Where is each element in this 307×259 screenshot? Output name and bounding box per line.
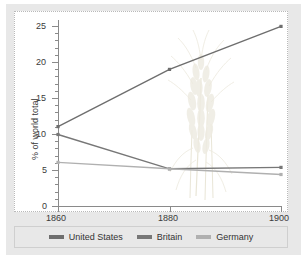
chart-legend: United States Britain Germany	[14, 226, 288, 248]
data-point-marker	[279, 166, 282, 169]
data-point-marker	[279, 173, 282, 176]
legend-swatch-germany	[196, 235, 211, 239]
legend-item-germany[interactable]: Germany	[196, 232, 253, 242]
legend-label-britain: Britain	[157, 232, 183, 242]
legend-label-united-states: United States	[69, 232, 123, 242]
data-point-marker	[279, 25, 282, 28]
data-point-marker	[56, 133, 59, 136]
legend-swatch-united-states	[49, 235, 64, 239]
legend-item-britain[interactable]: Britain	[137, 232, 183, 242]
series-line-united-states	[58, 26, 281, 126]
legend-swatch-britain	[137, 235, 152, 239]
data-point-marker	[56, 161, 59, 164]
chart-figure: 25 20 15 10 5 0 % of world total 1860 18…	[0, 0, 307, 259]
series-layer	[0, 0, 307, 259]
data-point-marker	[56, 125, 59, 128]
data-point-marker	[168, 167, 171, 170]
data-point-marker	[168, 68, 171, 71]
legend-label-germany: Germany	[216, 232, 253, 242]
legend-item-united-states[interactable]: United States	[49, 232, 123, 242]
